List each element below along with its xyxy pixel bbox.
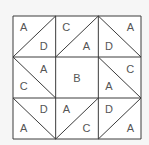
cell-r0-c1: C A: [56, 16, 99, 57]
cell-label: A: [40, 64, 47, 75]
cell-label: A: [127, 122, 134, 133]
cell-label: A: [20, 22, 27, 33]
cell-label: D: [40, 40, 48, 51]
cell-r2-c1: A C: [56, 98, 99, 139]
quilt-block-diagram: A D C A D A A C B C A D A A C D A: [13, 16, 141, 139]
cell-label: A: [63, 104, 70, 115]
cell-label: A: [127, 22, 134, 33]
cell-r0-c2: D A: [98, 16, 141, 57]
cell-label: A: [105, 80, 112, 91]
cell-label: B: [73, 72, 80, 83]
cell-label: C: [20, 80, 28, 91]
cell-label: A: [83, 40, 90, 51]
cell-r1-c1: B: [56, 57, 99, 98]
cell-label: C: [62, 22, 70, 33]
cell-r0-c0: A D: [13, 16, 56, 57]
cell-label: C: [82, 122, 90, 133]
cell-r1-c0: A C: [13, 57, 56, 98]
cell-r1-c2: C A: [98, 57, 141, 98]
cell-label: C: [126, 64, 134, 75]
cell-label: D: [105, 104, 113, 115]
cell-r2-c2: D A: [98, 98, 141, 139]
cell-r2-c0: D A: [13, 98, 56, 139]
cell-label: A: [20, 122, 27, 133]
cell-label: D: [40, 104, 48, 115]
cell-label: D: [105, 40, 113, 51]
